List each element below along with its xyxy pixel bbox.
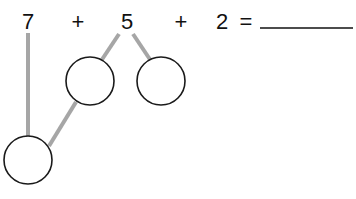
connector-left-part-to-sum (49, 102, 76, 146)
connector-5-to-right-part (133, 34, 151, 61)
term-2: 2 (216, 9, 228, 34)
number-bond-diagram: 7 + 5 + 2 = (0, 0, 356, 199)
empty-circle-left-part[interactable] (66, 57, 114, 105)
plus-sign-1: + (72, 9, 85, 34)
equals-sign: = (240, 9, 253, 34)
plus-sign-2: + (175, 9, 188, 34)
term-5: 5 (121, 9, 133, 34)
empty-circle-right-part[interactable] (137, 57, 185, 105)
empty-circle-sum[interactable] (4, 136, 52, 184)
connector-5-to-left-part (101, 34, 119, 61)
term-7: 7 (22, 9, 34, 34)
